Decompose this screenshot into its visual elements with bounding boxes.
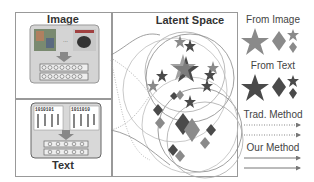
svg-text:...: ... (63, 37, 68, 43)
text-encoder-box: 1010101 1011010 (31, 103, 101, 158)
legend-from-image-shapes (241, 28, 299, 55)
svg-text:1010101: 1010101 (35, 107, 54, 112)
legend-from-text: From Text (240, 60, 306, 71)
diagram-canvas: ... 1010101 1011010 (0, 0, 314, 182)
svg-text:1011010: 1011010 (71, 107, 90, 112)
legend-from-text-shapes (241, 74, 299, 101)
image-encoder-box: ... (30, 25, 99, 83)
latent-stars (147, 35, 219, 108)
legend-from-image: From Image (240, 14, 306, 25)
legend-trad-method: Trad. Method (240, 109, 306, 120)
legend-our-method: Our Method (240, 142, 306, 153)
